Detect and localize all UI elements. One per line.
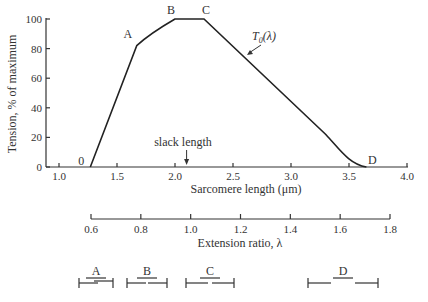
x-tick-label: 2.5 — [226, 170, 240, 182]
y-tick-label: 60 — [31, 72, 43, 84]
y-tick-label: 0 — [37, 161, 43, 173]
tension-curve — [90, 19, 366, 167]
x-tick-label: 1.5 — [110, 170, 124, 182]
filament-label: A — [92, 264, 101, 278]
tension-length-chart: 020406080100 1.01.52.02.53.03.54.0 0ABCD… — [0, 0, 428, 302]
filament-diagrams: ABCD — [79, 264, 378, 288]
point-label-b: B — [167, 3, 175, 17]
y-tick-label: 20 — [31, 131, 43, 143]
filament-label: D — [339, 264, 348, 278]
x-tick-label: 3.5 — [342, 170, 356, 182]
slack-length-label: slack length — [154, 135, 212, 149]
filament-label: C — [206, 264, 214, 278]
filament-label: B — [143, 264, 151, 278]
extension-tick-label: 1.4 — [283, 223, 297, 235]
point-label-c: C — [202, 3, 210, 17]
extension-tick-label: 1.0 — [184, 223, 198, 235]
extension-ratio-title: Extension ratio, λ — [198, 236, 283, 250]
curve-name-label: T0(λ) — [252, 29, 276, 45]
extension-tick-label: 1.2 — [234, 223, 248, 235]
slack-arrow-head — [184, 159, 189, 165]
extension-ratio-axis: 0.60.81.01.21.41.61.8 — [84, 214, 397, 235]
y-tick-label: 100 — [26, 13, 43, 25]
x-tick-label: 4.0 — [400, 170, 414, 182]
key-point-labels: 0ABCD — [78, 3, 377, 168]
filament-diagram-c: C — [186, 264, 234, 288]
y-axis-title: Tension, % of maximum — [5, 34, 19, 153]
x-tick-label: 2.0 — [168, 170, 182, 182]
y-tick-label: 40 — [31, 102, 43, 114]
point-label-a: A — [123, 27, 132, 41]
x-axis-title: Sarcomere length (μm) — [190, 182, 301, 196]
extension-tick-label: 1.8 — [383, 223, 397, 235]
x-tick-label: 1.0 — [52, 170, 66, 182]
filament-diagram-a: A — [79, 264, 113, 288]
y-tick-label: 80 — [31, 43, 43, 55]
filament-diagram-d: D — [308, 264, 378, 288]
filament-diagram-b: B — [127, 264, 167, 288]
extension-tick-label: 0.8 — [134, 223, 148, 235]
x-tick-label: 3.0 — [284, 170, 298, 182]
extension-tick-label: 0.6 — [84, 223, 98, 235]
extension-tick-label: 1.6 — [333, 223, 347, 235]
point-label-0: 0 — [78, 154, 84, 168]
slack-length-annotation: slack length — [154, 135, 212, 165]
point-label-d: D — [368, 153, 377, 167]
curve-name-annotation: T0(λ) — [247, 29, 276, 55]
